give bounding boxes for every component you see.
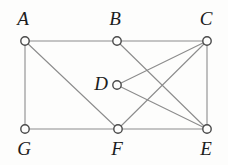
graph-vertex-c[interactable] [203,37,211,45]
vertices-group [21,37,211,133]
graph-edge-cd [117,41,207,85]
graph-vertex-e[interactable] [203,125,211,133]
graph-figure: ABCDGFE [0,0,228,165]
graph-vertex-f[interactable] [114,125,122,133]
vertex-label-a: A [13,9,33,28]
vertex-label-b: B [105,9,125,28]
graph-edge-de [117,85,207,129]
vertex-label-d: D [91,74,111,93]
graph-vertex-b[interactable] [113,37,121,45]
vertex-label-g: G [14,139,34,158]
graph-vertex-g[interactable] [21,125,29,133]
vertex-label-c: C [196,9,216,28]
vertex-label-e: E [196,139,216,158]
graph-vertex-d[interactable] [113,81,121,89]
graph-vertex-a[interactable] [21,37,29,45]
vertex-label-f: F [107,139,127,158]
